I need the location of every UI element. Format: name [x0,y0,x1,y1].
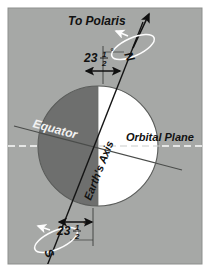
orbital-plane-label: Orbital Plane [126,131,194,143]
to-polaris-label: To Polaris [68,14,126,28]
north-angle-denominator: 2 [101,59,107,68]
south-angle-whole: 23 [56,224,71,238]
south-angle-denominator: 2 [74,232,80,241]
north-angle-whole: 23 [83,51,98,65]
earth-tilt-figure: To Polaris N S 23 1 2 ° 23 1 2 ° [0,0,210,272]
earth-axial-tilt-diagram: To Polaris N S 23 1 2 ° 23 1 2 ° [0,0,210,272]
